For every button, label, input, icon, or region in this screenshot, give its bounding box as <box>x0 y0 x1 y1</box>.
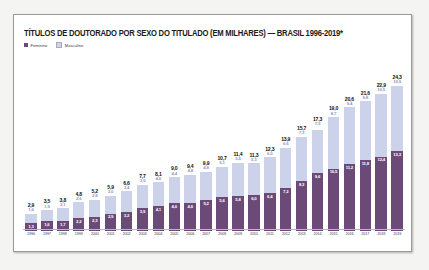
bar-column[interactable]: 7,73,93,9 <box>134 55 150 231</box>
x-axis-tick-label: 2004 <box>150 232 166 236</box>
stacked-bar[interactable]: 4,6 <box>169 177 181 231</box>
bar-column[interactable]: 21,69,811,8 <box>357 55 373 231</box>
bar-column[interactable]: 2,91,61,3 <box>23 55 39 231</box>
bar-segment-masculino[interactable] <box>328 117 340 169</box>
bar-column[interactable]: 17,37,39,6 <box>310 55 326 231</box>
bar-segment-masculino[interactable] <box>360 101 372 160</box>
bar-segment-masculino[interactable] <box>296 137 308 181</box>
stacked-bar[interactable]: 2,2 <box>73 202 85 231</box>
bar-segment-masculino[interactable] <box>312 130 324 174</box>
bar-column[interactable]: 3,51,91,6 <box>39 55 55 231</box>
bar-column[interactable]: 3,82,11,7 <box>55 55 71 231</box>
bar-segment-feminino[interactable]: 4,6 <box>169 203 181 231</box>
bar-segment-masculino[interactable] <box>137 185 149 208</box>
stacked-bar[interactable]: 11,2 <box>344 107 356 231</box>
bar-column[interactable]: 8,14,04,1 <box>150 55 166 231</box>
bar-column[interactable]: 11,35,36,0 <box>246 55 262 231</box>
bar-segment-masculino[interactable] <box>232 163 244 197</box>
bar-column[interactable]: 5,22,82,3 <box>87 55 103 231</box>
bar-column[interactable]: 15,77,38,3 <box>294 55 310 231</box>
bar-column[interactable]: 4,82,62,2 <box>71 55 87 231</box>
bar-segment-masculino[interactable] <box>89 200 101 217</box>
bar-segment-masculino[interactable] <box>344 107 356 163</box>
stacked-bar[interactable]: 2,9 <box>105 196 117 231</box>
stacked-bar[interactable]: 8,3 <box>296 137 308 231</box>
stacked-bar[interactable]: 4,1 <box>153 182 165 231</box>
stacked-bar[interactable]: 12,4 <box>375 94 387 231</box>
stacked-bar[interactable]: 5,8 <box>232 163 244 231</box>
chart-legend: Feminino Masculino <box>24 42 83 48</box>
bar-segment-masculino[interactable] <box>248 163 260 195</box>
bar-column[interactable]: 12,36,06,4 <box>262 55 278 231</box>
bar-segment-feminino[interactable]: 11,8 <box>360 160 372 231</box>
bar-segment-masculino[interactable] <box>73 202 85 218</box>
x-axis-tick-label: 2000 <box>87 232 103 236</box>
bar-column[interactable]: 6,63,43,2 <box>119 55 135 231</box>
bar-segment-feminino[interactable]: 4,6 <box>184 203 196 231</box>
bar-segment-masculino[interactable] <box>184 175 196 204</box>
bar-segment-masculino[interactable] <box>153 182 165 206</box>
bar-value-labels: 8,14,0 <box>155 172 161 182</box>
bar-segment-feminino[interactable]: 6,4 <box>264 193 276 231</box>
stacked-bar[interactable]: 5,6 <box>216 167 228 231</box>
bar-column[interactable]: 9,94,85,2 <box>198 55 214 231</box>
bar-value-labels: 11,35,3 <box>249 153 258 163</box>
stacked-bar[interactable]: 5,2 <box>200 172 212 231</box>
bar-segment-masculino[interactable] <box>264 157 276 193</box>
bar-segment-feminino[interactable]: 5,6 <box>216 197 228 231</box>
bar-value-labels: 2,91,6 <box>28 203 34 213</box>
bar-segment-masculino[interactable] <box>121 191 133 211</box>
bar-segment-feminino[interactable]: 8,3 <box>296 181 308 231</box>
bar-segment-feminino[interactable]: 10,5 <box>328 169 340 231</box>
bar-column[interactable]: 20,69,411,2 <box>341 55 357 231</box>
bar-segment-masculino[interactable] <box>105 196 117 214</box>
bar-segment-masculino[interactable] <box>25 214 37 224</box>
chart-page: TÍTULOS DE DOUTORADO POR SEXO DO TITULAD… <box>0 0 429 270</box>
bar-segment-masculino[interactable] <box>375 94 387 157</box>
bar-segment-feminino[interactable]: 9,6 <box>312 173 324 231</box>
bar-segment-masculino[interactable] <box>41 210 53 221</box>
bar-column[interactable]: 10,75,15,6 <box>214 55 230 231</box>
bar-masculino-label: 4,8 <box>187 169 193 173</box>
bar-segment-masculino[interactable] <box>169 177 181 203</box>
stacked-bar[interactable]: 3,9 <box>137 185 149 231</box>
bar-segment-feminino[interactable]: 11,2 <box>344 164 356 231</box>
bar-column[interactable]: 11,45,65,8 <box>230 55 246 231</box>
stacked-bar[interactable]: 9,6 <box>312 127 324 231</box>
x-axis-tick-label: 2019 <box>389 232 405 236</box>
stacked-bar[interactable]: 2,3 <box>89 200 101 231</box>
bar-column[interactable]: 5,93,02,9 <box>103 55 119 231</box>
bar-feminino-label: 4,6 <box>187 204 192 209</box>
stacked-bar[interactable]: 10,5 <box>328 117 340 231</box>
bar-column[interactable]: 19,08,710,5 <box>326 55 342 231</box>
stacked-bar[interactable]: 6,0 <box>248 163 260 231</box>
bar-feminino-label: 4,1 <box>156 207 161 212</box>
bar-column[interactable]: 22,910,512,4 <box>373 55 389 231</box>
bar-segment-feminino[interactable]: 7,2 <box>280 188 292 231</box>
bar-column[interactable]: 9,44,84,6 <box>182 55 198 231</box>
bar-segment-feminino[interactable]: 3,9 <box>137 208 149 231</box>
bar-segment-feminino[interactable]: 5,8 <box>232 196 244 231</box>
bar-column[interactable]: 24,310,913,3 <box>389 55 405 231</box>
bar-column[interactable]: 13,96,67,2 <box>278 55 294 231</box>
bar-segment-feminino[interactable]: 12,4 <box>375 157 387 231</box>
stacked-bar[interactable]: 6,4 <box>264 157 276 231</box>
stacked-bar[interactable]: 11,8 <box>360 101 372 231</box>
bar-segment-feminino[interactable]: 4,1 <box>153 206 165 231</box>
stacked-bar[interactable]: 1,6 <box>41 210 53 231</box>
bar-segment-masculino[interactable] <box>200 172 212 201</box>
stacked-bar[interactable]: 7,2 <box>280 148 292 231</box>
bar-segment-masculino[interactable] <box>57 208 69 221</box>
stacked-bar[interactable]: 4,6 <box>184 175 196 231</box>
bar-segment-masculino[interactable] <box>280 148 292 188</box>
bar-segment-masculino[interactable] <box>216 167 228 198</box>
bar-segment-feminino[interactable]: 5,2 <box>200 200 212 231</box>
bar-segment-masculino[interactable] <box>391 86 403 151</box>
stacked-bar[interactable]: 3,2 <box>121 191 133 231</box>
bar-feminino-label: 7,2 <box>283 189 288 194</box>
bar-segment-feminino[interactable]: 6,0 <box>248 195 260 231</box>
stacked-bar[interactable]: 13,3 <box>391 85 403 231</box>
stacked-bar[interactable]: 1,7 <box>57 208 69 231</box>
bar-segment-feminino[interactable]: 13,3 <box>391 151 403 231</box>
bar-column[interactable]: 9,04,44,6 <box>166 55 182 231</box>
